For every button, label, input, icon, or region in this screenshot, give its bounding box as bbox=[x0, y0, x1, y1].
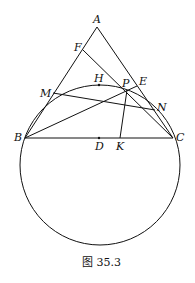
label-F: F bbox=[73, 41, 82, 54]
label-C: C bbox=[176, 131, 185, 144]
label-H: H bbox=[93, 72, 104, 85]
label-K: K bbox=[115, 140, 125, 153]
label-D: D bbox=[94, 140, 104, 153]
segment-FC bbox=[83, 50, 173, 138]
segment-PK bbox=[120, 90, 127, 138]
label-E: E bbox=[138, 75, 147, 88]
label-M: M bbox=[39, 87, 52, 100]
segment-AC bbox=[97, 27, 173, 138]
geometry-figure: A F M H P E N B C D K 图 35.3 bbox=[0, 0, 195, 283]
label-B: B bbox=[13, 131, 22, 144]
label-N: N bbox=[156, 101, 167, 114]
point-D-dot bbox=[98, 137, 100, 139]
label-A: A bbox=[92, 13, 101, 26]
figure-caption: 图 35.3 bbox=[82, 256, 121, 269]
label-P: P bbox=[121, 77, 130, 90]
